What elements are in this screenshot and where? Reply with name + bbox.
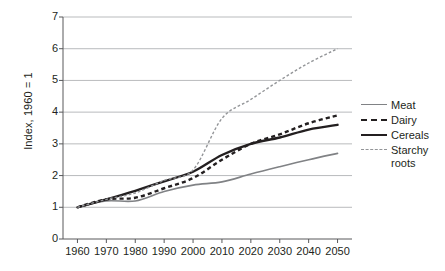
legend-item-dairy: Dairy bbox=[361, 114, 445, 129]
legend-label-dairy: Dairy bbox=[391, 114, 417, 127]
legend-swatch-meat-icon bbox=[361, 99, 387, 111]
data-series bbox=[77, 49, 337, 208]
legend-item-cereals: Cereals bbox=[361, 129, 445, 144]
legend-swatch-cereals-icon bbox=[361, 129, 387, 141]
legend-label-starchy-roots: Starchy roots bbox=[391, 144, 428, 170]
tick-marks bbox=[59, 17, 338, 243]
legend-label-cereals: Cereals bbox=[391, 129, 429, 142]
axis-lines bbox=[63, 17, 352, 239]
legend-item-starchy-roots: Starchy roots bbox=[361, 144, 445, 172]
line-chart: Index, 1960 = 1 01234567 196019701980199… bbox=[0, 0, 445, 271]
legend-label-meat: Meat bbox=[391, 99, 415, 112]
legend-item-meat: Meat bbox=[361, 99, 445, 114]
gridlines bbox=[63, 17, 352, 207]
legend-swatch-dairy-icon bbox=[361, 114, 387, 126]
series-line-cereals bbox=[77, 125, 337, 207]
series-line-meat bbox=[77, 153, 337, 207]
legend-swatch-starchy-roots-icon bbox=[361, 144, 387, 156]
legend: Meat Dairy Cereals Starchy roots bbox=[361, 99, 445, 172]
